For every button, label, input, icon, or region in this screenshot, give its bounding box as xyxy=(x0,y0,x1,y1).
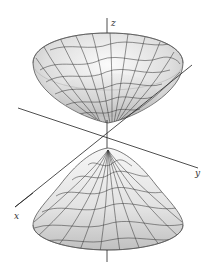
x-axis-label: x xyxy=(14,211,19,221)
x-axis-front xyxy=(15,193,33,207)
lower-sheet xyxy=(33,148,184,252)
z-axis-label: z xyxy=(110,18,116,28)
upper-sheet xyxy=(33,33,183,123)
y-axis-label: y xyxy=(194,168,201,178)
surface-plot: z y x xyxy=(0,0,217,266)
hyperboloid-figure: z y x xyxy=(0,0,217,266)
